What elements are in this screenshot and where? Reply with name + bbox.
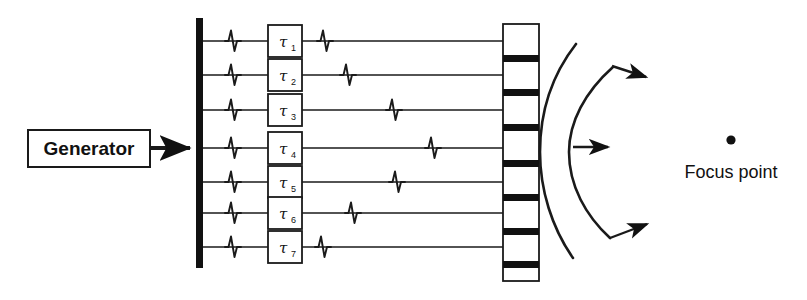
channel-7-output-pulse — [315, 237, 331, 258]
delay-4-subscript: 4 — [291, 150, 296, 160]
channel-6-input-pulse — [225, 203, 241, 224]
delay-5-tau-symbol: τ — [279, 174, 288, 192]
delay-1-tau-symbol: τ — [279, 33, 288, 51]
upper-propagation-arrow — [612, 66, 646, 77]
channel-5-input-pulse — [225, 172, 241, 193]
channel-row-5: τ 5 — [203, 166, 503, 198]
transducer-array — [503, 24, 539, 281]
phased-array-diagram: Generator τ 1 τ 2 — [0, 0, 807, 300]
delay-2-tau-symbol: τ — [279, 67, 288, 85]
channel-row-6: τ 6 — [203, 197, 503, 229]
transducer-separator-4 — [503, 160, 539, 167]
channel-row-2: τ 2 — [203, 59, 503, 91]
channel-1-output-pulse — [317, 31, 333, 52]
delay-1-subscript: 1 — [291, 43, 296, 53]
transducer-separator-7 — [503, 261, 539, 268]
delay-7-tau-symbol: τ — [279, 239, 288, 257]
channel-row-4: τ 4 — [203, 132, 503, 164]
delay-7-subscript: 7 — [291, 249, 296, 259]
focus-point-label: Focus point — [684, 162, 777, 182]
transducer-separator-2 — [503, 89, 539, 96]
channel-4-input-pulse — [225, 138, 241, 159]
channel-row-1: τ 1 — [203, 25, 503, 57]
delay-4-tau-symbol: τ — [279, 140, 288, 158]
focus-point-dot — [726, 135, 735, 144]
transducer-separator-3 — [503, 124, 539, 131]
transducer-separator-1 — [503, 55, 539, 62]
delay-5-subscript: 5 — [291, 184, 296, 194]
channel-5-output-pulse — [389, 172, 405, 193]
channel-4-output-pulse — [425, 138, 441, 159]
channel-1-input-pulse — [225, 31, 241, 52]
delay-3-tau-symbol: τ — [279, 102, 288, 120]
figure-canvas: Generator τ 1 τ 2 — [0, 0, 807, 300]
delay-6-subscript: 6 — [291, 215, 296, 225]
channel-3-input-pulse — [225, 100, 241, 121]
wavefront-group — [540, 44, 647, 258]
focus-point-group: Focus point — [684, 135, 777, 182]
channel-6-output-pulse — [345, 203, 361, 224]
generator-block: Generator — [28, 130, 190, 167]
channel-2-output-pulse — [340, 65, 356, 86]
delay-3-subscript: 3 — [291, 112, 296, 122]
transducer-separator-5 — [503, 194, 539, 201]
channel-row-7: τ 7 — [203, 231, 503, 263]
outer-wavefront-arc — [540, 44, 576, 258]
generator-label: Generator — [44, 138, 135, 159]
delay-2-subscript: 2 — [291, 77, 296, 87]
channel-row-3: τ 3 — [203, 94, 503, 126]
transducer-array-outline — [503, 24, 539, 281]
common-bus-bar — [196, 18, 203, 268]
channel-7-input-pulse — [225, 237, 241, 258]
transducer-separator-6 — [503, 228, 539, 235]
inner-wavefront-arc — [569, 67, 613, 238]
lower-propagation-arrow — [610, 224, 647, 238]
channel-2-input-pulse — [225, 65, 241, 86]
channel-3-output-pulse — [386, 100, 402, 121]
delay-6-tau-symbol: τ — [279, 205, 288, 223]
